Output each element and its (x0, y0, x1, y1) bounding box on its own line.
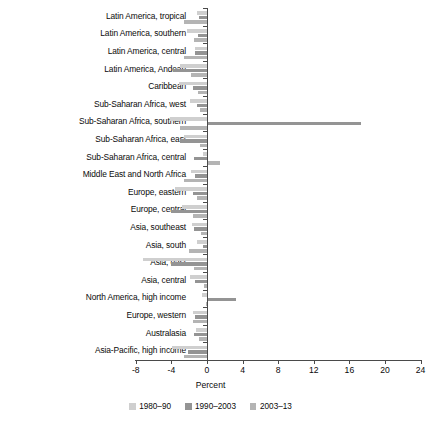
bar-1 (195, 315, 207, 319)
legend-label: 1980–90 (139, 402, 171, 411)
x-tick-mark (243, 360, 244, 364)
x-tick-label: 8 (263, 365, 293, 375)
bar-0 (170, 117, 207, 121)
bar-2 (193, 320, 207, 324)
bar-0 (202, 293, 207, 297)
bar-2 (184, 56, 207, 60)
bar-1 (173, 69, 207, 73)
category-tick (203, 254, 207, 255)
category-tick (203, 325, 207, 326)
bar-1 (203, 245, 207, 249)
legend-label: 1990–2003 (195, 402, 236, 411)
x-tick-mark (421, 360, 422, 364)
bar-2 (194, 267, 207, 271)
legend-swatch-icon (250, 403, 257, 410)
bar-1 (180, 139, 207, 143)
bar-0 (190, 99, 207, 103)
bar-0 (203, 152, 207, 156)
bar-1 (198, 34, 207, 38)
bar-2 (184, 20, 207, 24)
x-tick-label: 12 (299, 365, 329, 375)
legend-item-2[interactable]: 2003–13 (250, 402, 292, 411)
bar-1 (171, 210, 207, 214)
bar-2 (201, 232, 207, 236)
category-tick (203, 96, 207, 97)
bar-0 (193, 311, 207, 315)
bar-1 (194, 227, 207, 231)
bar-1 (208, 298, 236, 302)
bar-0 (191, 170, 207, 174)
x-axis-title: Percent (0, 380, 421, 390)
bar-1 (193, 86, 207, 90)
bar-1 (195, 280, 207, 284)
category-tick (203, 61, 207, 62)
plot-area (135, 8, 421, 360)
category-tick (203, 149, 207, 150)
bar-1 (208, 122, 361, 126)
x-tick-label: 0 (192, 365, 222, 375)
legend-label: 2003–13 (260, 402, 292, 411)
chart-legend: 1980–901990–20032003–13 (0, 402, 421, 411)
bar-0 (195, 47, 207, 51)
category-tick (203, 131, 207, 132)
bar-1 (199, 16, 207, 20)
x-tick-label: 4 (228, 365, 258, 375)
category-tick (203, 307, 207, 308)
category-tick (203, 114, 207, 115)
category-tick (203, 290, 207, 291)
category-tick (203, 78, 207, 79)
bar-0 (179, 82, 207, 86)
category-tick (203, 219, 207, 220)
x-tick-label: -8 (121, 365, 151, 375)
bar-0 (175, 187, 207, 191)
bar-2 (206, 302, 207, 306)
x-tick-mark (136, 360, 137, 364)
bar-0 (190, 275, 207, 279)
bar-0 (197, 240, 207, 244)
bar-0 (180, 64, 207, 68)
bar-2 (193, 214, 207, 218)
zero-baseline (207, 8, 208, 360)
category-tick (203, 184, 207, 185)
legend-item-0[interactable]: 1980–90 (129, 402, 171, 411)
x-tick-label: 16 (334, 365, 364, 375)
bar-1 (193, 192, 207, 196)
bar-1 (194, 157, 207, 161)
x-tick-mark (278, 360, 279, 364)
bar-0 (172, 346, 207, 350)
bar-2 (191, 73, 207, 77)
x-tick-mark (349, 360, 350, 364)
category-tick (203, 8, 207, 9)
bar-2 (208, 161, 220, 165)
legend-swatch-icon (185, 403, 192, 410)
category-tick (203, 272, 207, 273)
category-tick (203, 43, 207, 44)
x-tick-mark (314, 360, 315, 364)
bar-2 (184, 355, 207, 359)
bar-1 (195, 174, 207, 178)
bar-0 (196, 328, 207, 332)
bar-2 (198, 91, 207, 95)
bar-2 (204, 284, 207, 288)
bar-1 (171, 262, 207, 266)
x-tick-label: -4 (156, 365, 186, 375)
legend-swatch-icon (129, 403, 136, 410)
category-tick (203, 237, 207, 238)
bar-2 (194, 38, 207, 42)
bar-0 (184, 135, 207, 139)
legend-item-1[interactable]: 1990–2003 (185, 402, 236, 411)
bar-2 (184, 179, 207, 183)
bar-1 (195, 51, 207, 55)
bar-2 (200, 144, 207, 148)
x-tick-mark (207, 360, 208, 364)
bar-1 (197, 104, 207, 108)
bar-0 (197, 11, 207, 15)
bar-1 (188, 350, 207, 354)
category-tick (203, 166, 207, 167)
x-tick-label: 24 (406, 365, 430, 375)
bar-0 (182, 205, 207, 209)
x-tick-mark (171, 360, 172, 364)
x-tick-mark (385, 360, 386, 364)
category-tick (203, 202, 207, 203)
bar-1 (194, 333, 207, 337)
